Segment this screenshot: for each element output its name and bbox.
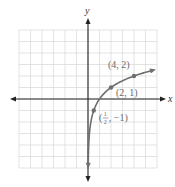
data-label: (2, 1) [116,87,138,99]
x-axis-arrow-left [10,97,16,102]
data-label-denominator: 2 [104,119,107,125]
data-point [92,108,96,112]
x-axis-label: x [167,93,173,104]
chart: x y (4, 2)(2, 1)(12, −1) [0,0,175,187]
x-axis-arrow-right [160,97,166,102]
data-point [109,85,113,89]
data-point [132,74,136,78]
data-label-numerator: 1 [104,111,107,117]
y-axis-arrow-up [86,18,91,24]
data-label-rest: , −1) [109,112,128,124]
data-label: (4, 2) [108,59,130,71]
y-axis-label: y [84,5,90,16]
points-group: (4, 2)(2, 1)(12, −1) [92,59,138,125]
data-label-paren-open: ( [99,111,103,124]
y-axis-arrow-down [86,176,91,182]
curve-arrow-right [150,69,156,74]
